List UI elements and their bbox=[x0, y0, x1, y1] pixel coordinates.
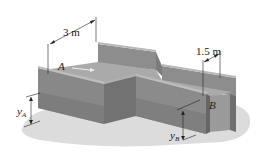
right-end-wall bbox=[230, 94, 236, 132]
channel-diagram-svg bbox=[0, 0, 267, 162]
width-b-label: 1.5 m bbox=[196, 46, 221, 57]
front-wall-inset bbox=[104, 76, 136, 124]
depth-a-label: yA bbox=[17, 106, 26, 119]
point-a-label: A bbox=[58, 61, 65, 72]
depth-b-label: yB bbox=[170, 130, 179, 143]
channel-figure: 3 m 1.5 m A B yA yB bbox=[0, 0, 267, 162]
width-a-label: 3 m bbox=[63, 27, 80, 38]
point-b-label: B bbox=[209, 100, 216, 111]
